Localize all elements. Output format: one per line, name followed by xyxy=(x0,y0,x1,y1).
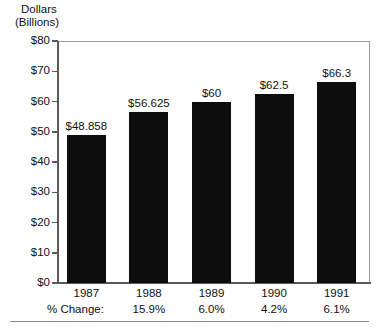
bar-value-label: $56.625 xyxy=(128,97,170,109)
y-axis-tick-label: $60 xyxy=(2,95,50,107)
y-axis-tick-label: $50 xyxy=(2,125,50,137)
bar-chart: Dollars (Billions) $0$10$20$30$40$50$60$… xyxy=(0,0,379,330)
x-axis-category-label: 1991 xyxy=(324,287,350,299)
y-axis-tick-label: $10 xyxy=(2,246,50,258)
percent-change-value: 6.1% xyxy=(324,303,350,315)
y-axis-tick-label: $70 xyxy=(2,64,50,76)
y-axis-tick-label: $0 xyxy=(2,276,50,288)
y-axis-tick-label: $40 xyxy=(2,155,50,167)
percent-change-value: 15.9% xyxy=(133,303,166,315)
percent-change-value: 6.0% xyxy=(198,303,224,315)
y-axis-title-line2: (Billions) xyxy=(15,16,59,30)
y-axis-tick-label: $80 xyxy=(2,34,50,46)
percent-change-caption: % Change: xyxy=(47,303,104,315)
x-axis-category-label: 1987 xyxy=(74,287,100,299)
x-axis-category-label: 1989 xyxy=(199,287,225,299)
bars-container: $48.858$56.625$60$62.5$66.3 xyxy=(57,41,370,283)
bar xyxy=(129,112,168,283)
bar-value-label: $60 xyxy=(202,87,221,99)
y-axis-tick-label: $20 xyxy=(2,216,50,228)
x-axis-category-label: 1990 xyxy=(261,287,287,299)
percent-change-value: 4.2% xyxy=(261,303,287,315)
bar-value-label: $62.5 xyxy=(260,79,289,91)
bottom-divider xyxy=(10,321,369,322)
bar xyxy=(255,94,294,283)
bar xyxy=(192,102,231,284)
bar xyxy=(317,82,356,283)
bar-value-label: $66.3 xyxy=(322,67,351,79)
bar xyxy=(67,135,106,283)
y-axis-tick-label: $30 xyxy=(2,185,50,197)
bar-value-label: $48.858 xyxy=(66,120,108,132)
x-axis-category-label: 1988 xyxy=(136,287,162,299)
y-axis-title-line1: Dollars xyxy=(21,3,57,17)
